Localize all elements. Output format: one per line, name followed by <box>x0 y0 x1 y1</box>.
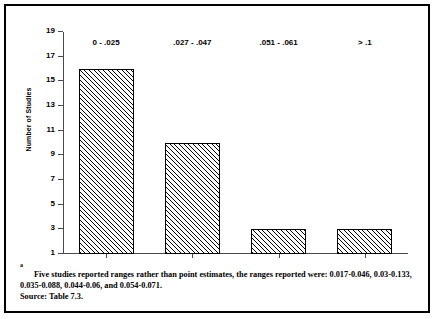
y-axis-title: Number of Studies <box>25 65 32 175</box>
footnote-block: a Five studies reported ranges rather th… <box>20 262 420 302</box>
y-tick-label: 9 <box>51 149 55 158</box>
y-tick-label: 19 <box>46 26 55 35</box>
y-tick: 13 <box>58 105 63 106</box>
y-axis-line <box>63 32 64 254</box>
footnote-marker: a <box>20 262 420 268</box>
y-tick-label: 15 <box>46 75 55 84</box>
x-tick <box>106 254 107 258</box>
y-tick-label: 13 <box>46 100 55 109</box>
bar <box>165 143 220 254</box>
bar <box>79 69 134 254</box>
y-tick-label: 5 <box>51 199 55 208</box>
y-tick: 1 <box>58 253 63 254</box>
y-tick: 7 <box>58 179 63 180</box>
footnote-text: Five studies reported ranges rather than… <box>20 269 420 291</box>
y-tick: 19 <box>58 31 63 32</box>
y-tick: 15 <box>58 80 63 81</box>
y-tick: 11 <box>58 130 63 131</box>
x-axis-category-label: .027 - .047 <box>149 38 235 47</box>
y-tick-label: 3 <box>51 223 55 232</box>
x-tick <box>192 254 193 258</box>
x-axis-category-label: .051 - .061 <box>236 38 322 47</box>
y-tick-label: 11 <box>47 125 55 134</box>
y-tick-label: 17 <box>46 51 55 60</box>
y-tick-label: 7 <box>51 174 55 183</box>
x-tick <box>365 254 366 258</box>
y-tick: 17 <box>58 56 63 57</box>
bar-chart: Number of Studies 135791113151719 0 - .0… <box>6 6 428 256</box>
x-tick <box>279 254 280 258</box>
y-tick: 9 <box>58 154 63 155</box>
source-text: Source: Table 7.3. <box>20 291 420 302</box>
bar <box>251 229 306 254</box>
x-axis-category-label: > .1 <box>322 38 408 47</box>
plot-area: 135791113151719 0 - .025.027 - .047.051 … <box>63 32 408 254</box>
y-tick: 5 <box>58 204 63 205</box>
figure-frame: Number of Studies 135791113151719 0 - .0… <box>4 4 430 313</box>
bar <box>337 229 392 254</box>
y-tick: 3 <box>58 228 63 229</box>
y-tick-label: 1 <box>51 248 55 257</box>
x-axis-category-label: 0 - .025 <box>63 38 149 47</box>
